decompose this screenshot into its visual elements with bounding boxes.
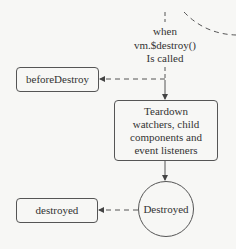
before-destroy-label: beforeDestroy — [26, 73, 89, 86]
trigger-line-2: vm.$destroy() — [120, 39, 210, 53]
trigger-line-3: Is called — [120, 52, 210, 66]
teardown-line-3: components and — [130, 131, 202, 144]
destroyed-hook-node: destroyed — [16, 198, 98, 223]
trigger-label: when vm.$destroy() Is called — [120, 25, 210, 66]
trigger-line-1: when — [120, 25, 210, 39]
destroyed-state-node: Destroyed — [138, 181, 194, 237]
teardown-line-2: watchers, child — [133, 118, 200, 131]
teardown-line-1: Teardown — [144, 105, 188, 118]
teardown-node: Teardown watchers, child components and … — [114, 100, 218, 161]
teardown-line-4: event listeners — [134, 144, 197, 157]
destroyed-state-label: Destroyed — [143, 203, 188, 215]
before-destroy-node: beforeDestroy — [16, 67, 99, 92]
destroyed-hook-label: destroyed — [36, 204, 79, 217]
